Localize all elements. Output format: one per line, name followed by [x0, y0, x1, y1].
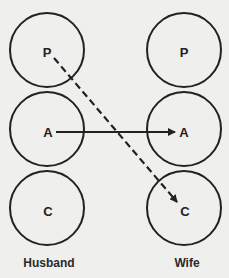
- husband-child-label: C: [43, 205, 52, 218]
- wife-adult-label: A: [179, 126, 188, 139]
- husband-adult-label: A: [43, 126, 52, 139]
- wife-column-label: Wife: [174, 256, 199, 270]
- wife-parent-label: P: [180, 46, 189, 59]
- diagram-graphics: [0, 0, 229, 278]
- wife-child-label: C: [180, 205, 189, 218]
- ego-state-diagram: P A C P A C Husband Wife: [0, 0, 229, 278]
- husband-column-label: Husband: [23, 256, 74, 270]
- husband-parent-label: P: [43, 46, 52, 59]
